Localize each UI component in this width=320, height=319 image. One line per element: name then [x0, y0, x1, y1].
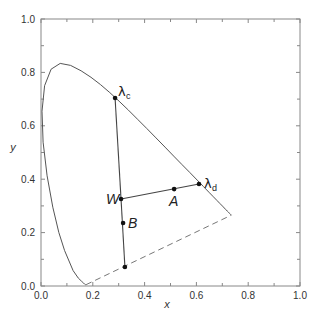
W-label: W	[106, 191, 121, 207]
data-points	[113, 96, 202, 270]
y-tick-label: 0.6	[21, 120, 35, 131]
x-tick-labels: 0.0 0.2 0.4 0.6 0.8 1.0	[34, 290, 307, 301]
x-tick-label: 0.2	[86, 290, 100, 301]
y-tick-label: 0.8	[21, 67, 35, 78]
x-tick-label: 0.0	[34, 290, 48, 301]
chromaticity-chart: 0.0 0.2 0.4 0.6 0.8 1.0 0.0 0.2 0.4 0.6 …	[0, 0, 320, 319]
x-tick-label: 0.8	[241, 290, 255, 301]
point-lambda_c	[113, 96, 118, 101]
construction-line	[121, 199, 125, 267]
x-axis-label: x	[163, 298, 170, 310]
x-tick-label: 0.4	[138, 290, 152, 301]
B-label: B	[128, 215, 137, 231]
spectral-locus-curve	[42, 63, 231, 284]
lambda-c-subscript: c	[126, 91, 131, 101]
construction-lines	[115, 98, 199, 267]
point-purple_point	[123, 265, 128, 270]
lambda-c-label: λ	[118, 84, 126, 99]
point-B	[121, 221, 126, 226]
y-tick-label: 0.0	[21, 281, 35, 292]
lambda-d-label: λ	[204, 176, 212, 191]
construction-line	[121, 184, 199, 199]
A-label: A	[168, 193, 178, 209]
y-tick-label: 1.0	[21, 14, 35, 25]
y-tick-labels: 0.0 0.2 0.4 0.6 0.8 1.0	[21, 14, 35, 292]
point-W	[119, 197, 124, 202]
y-tick-label: 0.2	[21, 227, 35, 238]
y-axis-label: y	[9, 141, 17, 153]
x-tick-label: 0.6	[189, 290, 203, 301]
point-labels: λ c λ d W A B	[106, 84, 217, 231]
point-lambda_d	[197, 182, 202, 187]
construction-line	[115, 98, 121, 199]
point-A	[172, 187, 177, 192]
lambda-d-subscript: d	[212, 183, 217, 193]
x-tick-label: 1.0	[293, 290, 307, 301]
y-tick-label: 0.4	[21, 174, 35, 185]
line-of-purples	[86, 215, 231, 285]
